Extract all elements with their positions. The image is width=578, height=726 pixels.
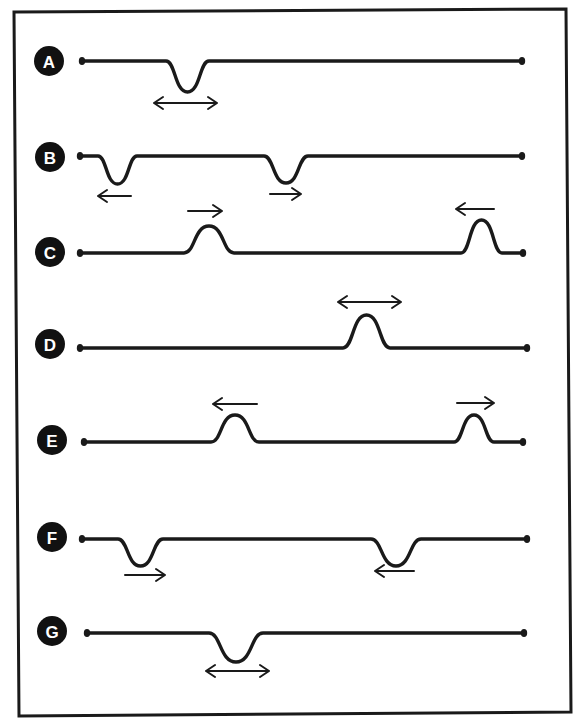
end-dot [524,344,530,352]
start-dot [79,57,85,65]
start-dot [79,535,85,543]
start-dot [77,249,83,257]
row-badge: F [37,522,67,552]
start-dot [77,152,83,160]
arrow-left-icon [456,203,494,215]
diagram-rows: ABCDEFG [34,46,530,677]
wave-line [87,633,524,662]
arrow-right-icon [188,205,222,217]
row-b: B [35,142,525,202]
end-dot [520,438,526,446]
wave-diagram: ABCDEFG [0,0,578,726]
row-badge-label: A [43,53,55,72]
row-d: D [35,296,530,359]
start-dot [77,344,83,352]
arrow-left-icon [98,190,131,202]
double-arrow-icon [206,665,269,677]
arrow-left-icon [213,398,257,410]
arrow-right-icon [270,188,301,200]
end-dot [521,629,527,637]
wave-line [80,315,527,348]
end-dot [520,249,526,257]
wave-line [84,415,523,442]
row-badge: C [35,237,65,267]
end-dot [519,57,525,65]
row-badge-label: G [45,623,58,642]
row-badge-label: B [44,149,56,168]
wave-line [80,220,523,253]
wave-line [80,156,522,184]
double-arrow-icon [338,296,401,308]
row-f: F [37,522,530,581]
row-badge-label: F [47,529,57,548]
arrow-right-icon [125,569,165,581]
row-badge: G [37,616,67,646]
end-dot [519,152,525,160]
double-arrow-icon [154,97,217,109]
end-dot [524,535,530,543]
row-badge-label: E [46,432,57,451]
arrow-right-icon [457,397,494,409]
row-badge: B [35,142,65,172]
row-badge: E [37,425,67,455]
row-c: C [35,203,526,267]
start-dot [81,438,87,446]
row-badge: A [34,46,64,76]
row-e: E [37,397,526,455]
row-badge-label: C [44,244,56,263]
row-badge: D [35,329,65,359]
row-a: A [34,46,525,109]
row-badge-label: D [44,336,56,355]
row-g: G [37,616,527,677]
wave-line [82,539,527,566]
diagram-frame [14,9,571,716]
start-dot [84,629,90,637]
wave-line [82,61,522,92]
